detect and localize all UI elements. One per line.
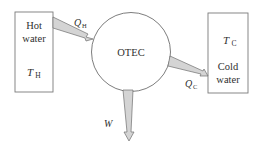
hot-temp-symbol: T [27,66,34,78]
otec-diagram: Hot water T H T C Cold water OTEC Q H Q … [0,0,261,151]
work-symbol: W [104,118,114,129]
hot-water-reservoir: Hot water T H [15,12,53,92]
work-out-arrow: W [104,90,134,141]
heat-in-arrow: Q H [53,17,93,41]
hot-water-label-line2: water [22,33,46,44]
heat-out-arrow: Q C [168,56,208,90]
cold-water-label-line2: water [216,74,240,85]
heat-out-symbol: Q [185,78,193,89]
heat-out-subscript: C [193,83,197,90]
heat-in-symbol: Q [74,17,82,28]
otec-engine: OTEC [92,13,171,92]
heat-in-subscript: H [82,22,87,29]
cold-temp-subscript: C [231,39,236,48]
cold-temp-symbol: T [223,34,230,46]
cold-water-reservoir: T C Cold water [208,13,248,93]
hot-water-label-line1: Hot [26,20,42,31]
otec-label: OTEC [117,47,144,58]
cold-water-label-line1: Cold [218,61,239,72]
hot-temp-subscript: H [35,71,41,80]
